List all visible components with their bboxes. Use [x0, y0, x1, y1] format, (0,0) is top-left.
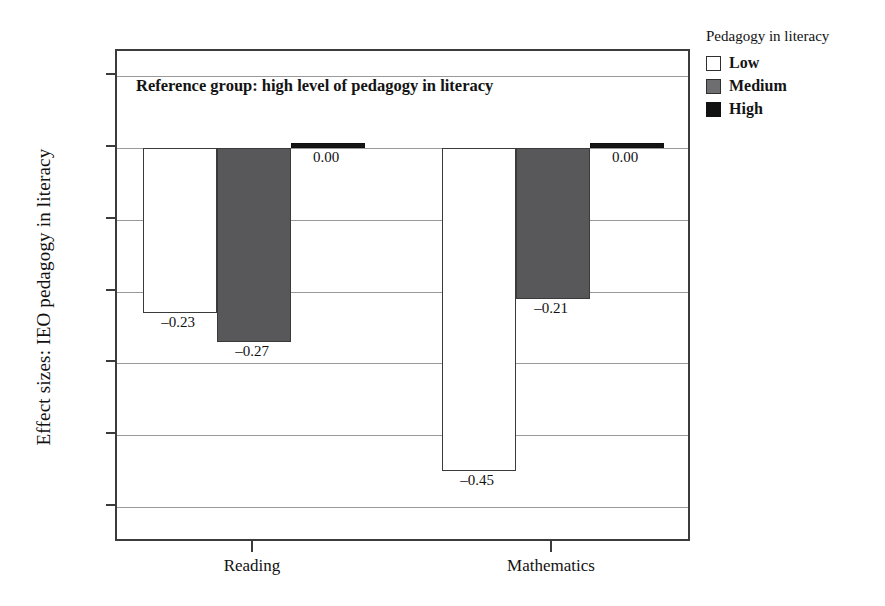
legend-item-label: High	[729, 100, 763, 118]
gridline	[117, 363, 688, 364]
medium-swatch-icon	[706, 79, 721, 94]
x-tick-label-reading: Reading	[224, 556, 281, 576]
legend-item-low[interactable]: Low	[706, 54, 881, 72]
legend-item-label: Low	[729, 54, 759, 72]
legend: Pedagogy in literacy LowMediumHigh	[706, 28, 881, 123]
chart-figure: Effect sizes: IEO pedagogy in literacy 0…	[0, 0, 885, 606]
legend-item-high[interactable]: High	[706, 100, 881, 118]
bar-value-label: –0.21	[534, 300, 568, 317]
legend-item-medium[interactable]: Medium	[706, 77, 881, 95]
x-tick-label-mathematics: Mathematics	[507, 556, 595, 576]
x-tick-mark	[251, 541, 253, 552]
reference-group-annotation: Reference group: high level of pedagogy …	[136, 76, 493, 96]
low-swatch-icon	[706, 56, 721, 71]
bar-reading-medium[interactable]	[217, 148, 291, 342]
bar-mathematics-low[interactable]	[442, 148, 516, 471]
y-axis-title: Effect sizes: IEO pedagogy in literacy	[33, 87, 55, 507]
x-tick-mark	[550, 541, 552, 552]
high-swatch-icon	[706, 102, 721, 117]
plot-area	[115, 49, 690, 541]
legend-title: Pedagogy in literacy	[706, 28, 881, 45]
legend-item-label: Medium	[729, 77, 787, 95]
gridline	[117, 435, 688, 436]
bar-value-label: 0.00	[612, 149, 638, 166]
bar-mathematics-medium[interactable]	[516, 148, 590, 299]
legend-items: LowMediumHigh	[706, 54, 881, 118]
bar-value-label: –0.27	[235, 343, 269, 360]
bar-value-label: –0.45	[460, 472, 494, 489]
bar-reading-high[interactable]	[291, 143, 365, 148]
bar-value-label: –0.23	[161, 314, 195, 331]
bar-mathematics-high[interactable]	[590, 143, 664, 148]
bar-value-label: 0.00	[313, 149, 339, 166]
bar-reading-low[interactable]	[143, 148, 217, 313]
gridline	[117, 507, 688, 508]
